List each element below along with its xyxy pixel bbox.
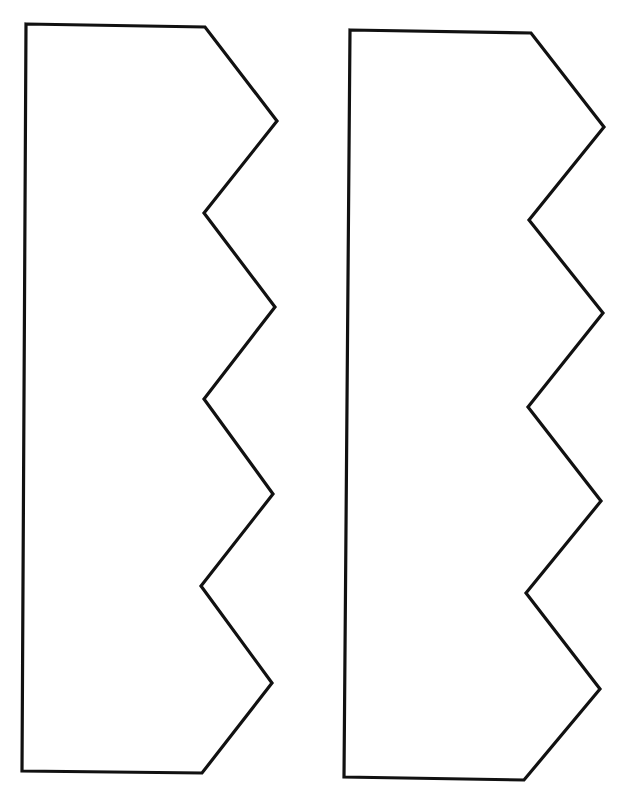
- diagram-canvas: [0, 0, 636, 797]
- left-zigzag-shape: [22, 24, 277, 773]
- right-zigzag-shape: [344, 30, 604, 780]
